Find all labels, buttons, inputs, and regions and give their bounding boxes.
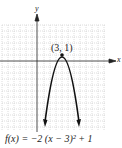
graph [0, 0, 122, 148]
left-arrow-icon [43, 119, 48, 127]
vertex-label: (3, 1) [51, 42, 73, 53]
y-axis-arrow-icon [35, 14, 39, 21]
vertex-point [60, 53, 64, 57]
grid [2, 25, 106, 130]
x-axis-label: x [117, 55, 121, 64]
y-axis-label: y [35, 4, 39, 13]
equation-label: f(x) = −2 (x − 3)² + 1 [5, 133, 92, 144]
right-arrow-icon [77, 119, 82, 127]
x-axis-arrow-icon [109, 59, 116, 63]
